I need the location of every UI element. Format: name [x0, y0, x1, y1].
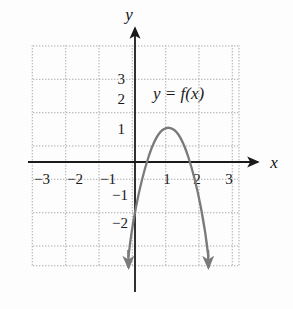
y-tick-label-3: 3 — [118, 71, 126, 87]
x-axis-label: x — [269, 153, 278, 172]
y-axis-label: y — [123, 5, 133, 24]
y-tick-label-1: 1 — [118, 121, 126, 137]
function-curve — [129, 128, 209, 257]
function-annotation: y = f(x) — [151, 84, 204, 103]
x-tick-label--3: −3 — [34, 171, 50, 187]
y-tick-label-2: 2 — [118, 91, 126, 107]
y-tick-label--1: −1 — [112, 187, 128, 203]
coordinate-plane-graph: y x −3 −2 −1 1 2 3 3 2 1 −1 −2 y = f(x) — [0, 0, 293, 309]
x-tick-label--2: −2 — [67, 171, 83, 187]
x-tick-label-1: 1 — [163, 171, 171, 187]
x-tick-label--1: −1 — [100, 171, 116, 187]
y-tick-label--2: −2 — [112, 215, 128, 231]
x-tick-label-3: 3 — [225, 171, 233, 187]
graph-figure: y x −3 −2 −1 1 2 3 3 2 1 −1 −2 y = f(x) — [0, 0, 293, 309]
